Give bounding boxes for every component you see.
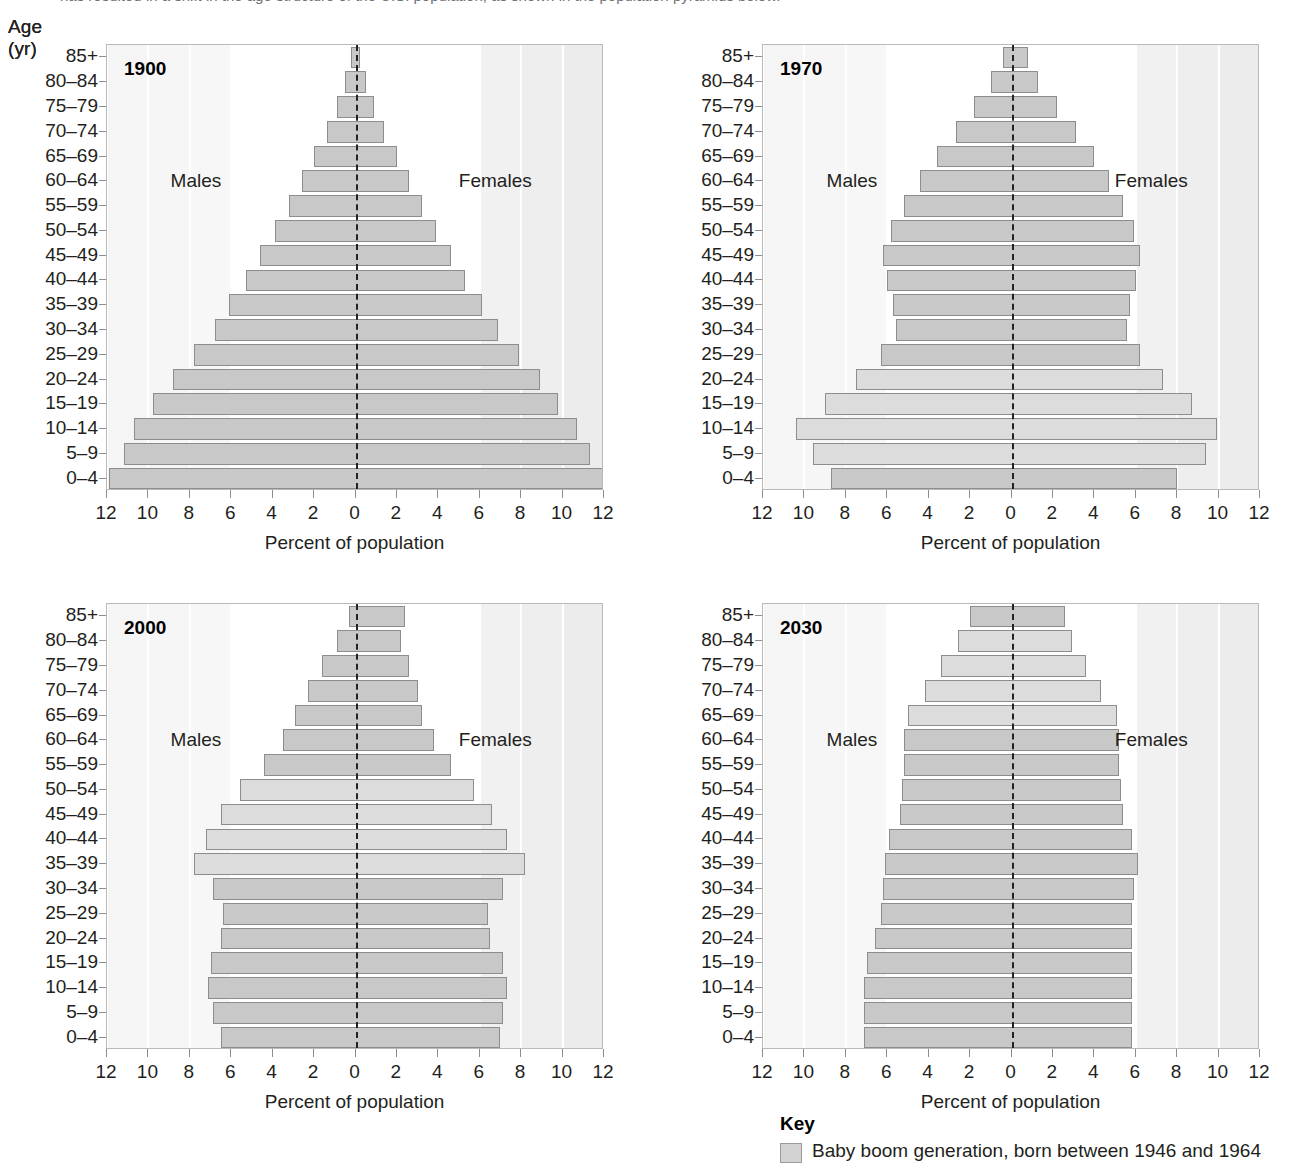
x-axis-tick-label: 6: [1129, 502, 1140, 524]
y-axis-tick-label: 70–74: [658, 679, 754, 701]
x-axis-tick-label: 12: [592, 502, 613, 524]
x-axis-tick-label: 10: [793, 502, 814, 524]
plot-area: [762, 44, 1259, 490]
y-axis-tick-label: 20–24: [658, 927, 754, 949]
y-axis-tick: [99, 1037, 106, 1038]
y-axis-tick: [755, 230, 762, 231]
y-axis-tick: [755, 329, 762, 330]
x-axis-tick: [1135, 1049, 1136, 1057]
pyramid-bar: [194, 853, 525, 875]
x-axis-tick: [313, 1049, 314, 1057]
y-axis-tick: [99, 205, 106, 206]
y-axis-tick: [755, 888, 762, 889]
x-axis-tick-label: 2: [391, 502, 402, 524]
y-axis-tick: [99, 403, 106, 404]
y-axis-tick-label: 50–54: [2, 219, 98, 241]
y-axis-tick: [99, 789, 106, 790]
y-axis-tick-label: 30–34: [2, 877, 98, 899]
y-axis-tick: [755, 304, 762, 305]
y-axis-tick-label: 85+: [658, 45, 754, 67]
y-axis-tick-label: 40–44: [658, 827, 754, 849]
x-axis-tick-label: 10: [1207, 502, 1228, 524]
y-axis-tick: [99, 615, 106, 616]
y-axis-tick: [755, 690, 762, 691]
males-label: Males: [171, 170, 222, 192]
x-axis-tick-label: 12: [95, 1061, 116, 1083]
y-axis-tick: [99, 715, 106, 716]
y-axis-tick: [755, 1037, 762, 1038]
y-axis-tick-label: 25–29: [2, 902, 98, 924]
x-axis-tick-label: 6: [473, 502, 484, 524]
y-axis-tick-label: 35–39: [2, 852, 98, 874]
pyramid-bar: [864, 1027, 1131, 1049]
panel-year-label: 1970: [780, 58, 822, 80]
pyramid-bar: [813, 443, 1206, 465]
plot-area: [106, 603, 603, 1049]
y-axis-tick: [99, 690, 106, 691]
y-axis-tick-label: 5–9: [658, 442, 754, 464]
females-label: Females: [1115, 729, 1188, 751]
y-axis-tick-label: 10–14: [2, 417, 98, 439]
males-label: Males: [827, 170, 878, 192]
x-axis-tick-label: 0: [1005, 1061, 1016, 1083]
x-axis-tick-label: 8: [184, 502, 195, 524]
pyramid-bar: [264, 754, 450, 776]
x-axis-tick-label: 8: [1171, 1061, 1182, 1083]
x-axis-tick-label: 12: [95, 502, 116, 524]
pyramid-bar: [974, 96, 1057, 118]
cut-off-caption: has resulted in a shift in the age struc…: [0, 0, 1307, 16]
females-label: Females: [459, 729, 532, 751]
y-axis-tick-label: 10–14: [2, 976, 98, 998]
x-axis-tick-label: 10: [793, 1061, 814, 1083]
x-axis-tick: [1093, 1049, 1094, 1057]
y-axis-tick-label: 0–4: [2, 1026, 98, 1048]
pyramid-bar: [941, 655, 1086, 677]
y-axis-tick-label: 70–74: [2, 679, 98, 701]
x-axis-tick-label: 10: [137, 1061, 158, 1083]
x-axis-tick-label: 0: [349, 502, 360, 524]
y-axis-tick: [755, 131, 762, 132]
x-axis-tick: [272, 1049, 273, 1057]
plot-area: [106, 44, 603, 490]
y-axis-tick-label: 0–4: [658, 467, 754, 489]
y-axis-tick: [755, 615, 762, 616]
y-axis-tick: [99, 814, 106, 815]
pyramid-bar: [308, 680, 418, 702]
key-swatch-baby-boom: [780, 1143, 802, 1163]
x-axis-tick: [1259, 490, 1260, 498]
pyramid-bar: [875, 928, 1132, 950]
x-axis-tick-label: 6: [225, 502, 236, 524]
center-axis-line: [356, 45, 358, 489]
y-axis-tick: [99, 962, 106, 963]
pyramid-bar: [867, 952, 1132, 974]
y-axis-tick: [99, 230, 106, 231]
y-axis-tick: [99, 255, 106, 256]
y-axis-tick: [99, 428, 106, 429]
y-axis-tick: [755, 81, 762, 82]
x-axis-tick: [396, 490, 397, 498]
x-axis-tick: [1176, 490, 1177, 498]
panel-year-label: 2000: [124, 617, 166, 639]
y-axis-tick: [99, 354, 106, 355]
y-axis-tick-label: 85+: [2, 604, 98, 626]
x-axis-tick: [230, 490, 231, 498]
y-axis-tick-label: 50–54: [658, 778, 754, 800]
x-axis-tick: [147, 490, 148, 498]
y-axis-tick-label: 40–44: [2, 268, 98, 290]
x-axis-tick: [886, 1049, 887, 1057]
x-axis-tick-label: 4: [266, 1061, 277, 1083]
x-axis-tick: [762, 490, 763, 498]
y-axis-tick: [99, 1012, 106, 1013]
key-label-baby-boom: Baby boom generation, born between 1946 …: [812, 1140, 1261, 1162]
y-axis-tick: [99, 106, 106, 107]
y-axis-tick: [99, 379, 106, 380]
y-axis-tick: [755, 987, 762, 988]
y-axis-tick-label: 85+: [658, 604, 754, 626]
x-axis-tick-label: 2: [308, 502, 319, 524]
x-axis-tick-label: 12: [592, 1061, 613, 1083]
y-axis-tick-label: 45–49: [658, 803, 754, 825]
y-axis-tick: [755, 938, 762, 939]
x-axis-tick: [1259, 1049, 1260, 1057]
pyramid-bar: [970, 606, 1065, 628]
x-axis-tick-label: 2: [391, 1061, 402, 1083]
